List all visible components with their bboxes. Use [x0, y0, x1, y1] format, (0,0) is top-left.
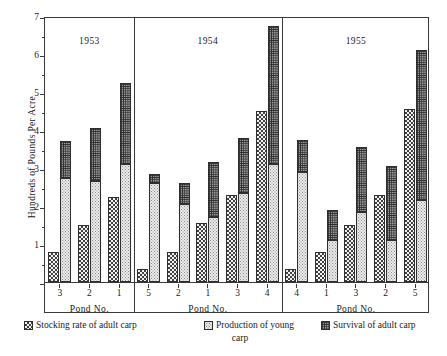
bar-stocking-1955-pond1 [315, 252, 326, 282]
y-tick-5 [40, 94, 45, 95]
y-tick-1 [40, 246, 45, 247]
y-tick-minor [42, 75, 45, 76]
bar-segment-survival-adult [208, 162, 219, 217]
panel-year-1954: 1954 [134, 36, 282, 46]
legend-label-young: Production of young [216, 320, 294, 330]
legend-label-survival: Survival of adult carp [333, 320, 416, 330]
bar-production-survival-1955-pond3 [356, 147, 367, 282]
y-tick-label-4: 4 [23, 127, 39, 137]
bar-segment-survival-adult [356, 147, 367, 212]
bar-production-survival-1954-pond3 [238, 138, 249, 282]
bar-segment-survival-adult [386, 166, 397, 240]
bar-segment-survival-adult [238, 138, 249, 193]
bar-segment-survival-adult [120, 83, 131, 165]
bar-segment-stocking [404, 109, 415, 282]
y-tick-label-6: 6 [23, 51, 39, 61]
bar-segment-stocking [108, 197, 119, 283]
y-tick-6 [40, 56, 45, 57]
bar-production-survival-1954-pond4 [268, 26, 279, 283]
young-swatch-icon [204, 321, 213, 330]
y-tick-minor [42, 227, 45, 228]
survival-swatch-icon [321, 321, 330, 330]
bar-stocking-1953-pond1 [108, 197, 119, 283]
bar-stocking-1955-pond3 [344, 225, 355, 282]
chart-figure: Hundreds of Pounds Per Acre 123456719533… [0, 0, 447, 356]
bar-stocking-1954-pond5 [137, 269, 148, 282]
y-tick-label-1: 1 [23, 241, 39, 251]
bar-production-survival-1955-pond2 [386, 166, 397, 282]
y-tick-minor [42, 151, 45, 152]
y-tick-label-2: 2 [23, 203, 39, 213]
bar-segment-stocking [167, 252, 178, 282]
panel-divider [134, 18, 135, 284]
bar-production-survival-1954-pond5 [149, 174, 160, 282]
y-tick-label-7: 7 [23, 13, 39, 23]
bar-production-survival-1955-pond5 [416, 50, 427, 282]
bar-segment-stocking [78, 225, 89, 282]
legend-row: Stocking rate of adult carp Production o… [24, 320, 424, 334]
legend-label-stocking: Stocking rate of adult carp [36, 320, 137, 330]
stocking-swatch-icon [24, 321, 33, 330]
legend-label-young-continuation: carp [210, 333, 270, 343]
y-tick-minor [42, 265, 45, 266]
bar-production-survival-1953-pond3 [60, 141, 71, 282]
bar-segment-production-young [149, 183, 160, 282]
bar-segment-production-young [120, 164, 131, 282]
bar-segment-production-young [327, 240, 338, 282]
bar-segment-production-young [238, 193, 249, 282]
bar-stocking-1953-pond2 [78, 225, 89, 282]
chart-legend: Stocking rate of adult carp Production o… [24, 320, 424, 334]
bar-segment-production-young [90, 181, 101, 282]
legend-item-survival: Survival of adult carp [321, 320, 416, 330]
bar-stocking-1954-pond1 [196, 223, 207, 282]
bar-segment-production-young [416, 200, 427, 282]
bar-segment-survival-adult [268, 26, 279, 165]
legend-item-stocking: Stocking rate of adult carp [24, 320, 137, 330]
bar-production-survival-1954-pond1 [208, 162, 219, 282]
bar-segment-production-young [356, 212, 367, 282]
y-tick-4 [40, 132, 45, 133]
bar-production-survival-1955-pond4 [297, 140, 308, 283]
bar-segment-production-young [179, 204, 190, 282]
panel-divider-strip [134, 283, 135, 313]
panel-divider-strip [282, 283, 283, 313]
bar-stocking-1954-pond3 [226, 195, 237, 282]
bar-segment-survival-adult [179, 183, 190, 204]
bar-production-survival-1955-pond1 [327, 210, 338, 282]
bar-segment-survival-adult [60, 141, 71, 177]
bar-segment-stocking [285, 269, 296, 282]
y-tick-minor [42, 113, 45, 114]
bar-segment-stocking [48, 252, 59, 282]
bar-segment-production-young [268, 164, 279, 282]
panel-divider [282, 18, 283, 284]
bar-segment-production-young [208, 217, 219, 282]
panel-year-1953: 1953 [45, 36, 134, 46]
legend-item-young: Production of young [204, 320, 294, 330]
bar-production-survival-1954-pond2 [179, 183, 190, 282]
bar-production-survival-1953-pond1 [120, 83, 131, 283]
bar-stocking-1955-pond2 [374, 195, 385, 282]
bar-segment-stocking [374, 195, 385, 282]
bar-segment-survival-adult [297, 140, 308, 172]
bar-segment-production-young [60, 178, 71, 283]
bar-segment-survival-adult [149, 174, 160, 184]
bar-segment-stocking [196, 223, 207, 282]
y-tick-2 [40, 208, 45, 209]
y-tick-label-5: 5 [23, 89, 39, 99]
bar-production-survival-1953-pond2 [90, 128, 101, 282]
bar-stocking-1954-pond4 [256, 111, 267, 282]
y-tick-3 [40, 170, 45, 171]
bar-segment-survival-adult [327, 210, 338, 240]
bar-segment-stocking [315, 252, 326, 282]
bar-segment-stocking [137, 269, 148, 282]
bar-stocking-1953-pond3 [48, 252, 59, 282]
bar-segment-production-young [386, 240, 397, 282]
bar-stocking-1955-pond5 [404, 109, 415, 282]
bar-segment-survival-adult [90, 128, 101, 181]
panel-year-1955: 1955 [282, 36, 430, 46]
bar-segment-stocking [256, 111, 267, 282]
bar-segment-survival-adult [416, 50, 427, 200]
bar-segment-stocking [226, 195, 237, 282]
bar-stocking-1954-pond2 [167, 252, 178, 282]
y-tick-label-3: 3 [23, 165, 39, 175]
